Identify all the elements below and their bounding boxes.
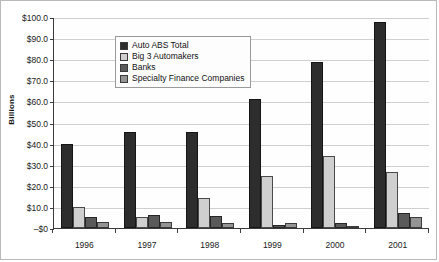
y-axis-title: Billions [7,74,16,146]
bar [311,62,323,228]
x-axis-tick-label: 1997 [116,229,179,261]
x-axis-tick-mark [365,229,366,233]
bar [73,207,85,228]
bar [124,132,136,228]
bar [410,217,422,228]
bar [347,226,359,228]
x-axis-tick-label: 2000 [304,229,367,261]
legend-item[interactable]: Specialty Finance Companies [120,73,244,84]
bar [386,172,398,228]
legend-label: Banks [132,62,156,73]
x-axis-tick-label: 1996 [53,229,116,261]
chart-figure: Billions $100.0$90.0$80.0$70.0$60.0$50.0… [0,0,437,260]
legend-label: Auto ABS Total [132,40,189,51]
bar [160,222,172,228]
x-axis-tick-mark [115,229,116,233]
x-axis-tick-mark [52,229,53,233]
bar [374,22,386,228]
bar-group [54,18,117,228]
bar [186,132,198,228]
x-axis-tick-label: 2001 [366,229,429,261]
legend-label: Big 3 Automakers [132,51,199,62]
x-axis-tick-label: 1998 [178,229,241,261]
bar [249,99,261,228]
legend-item[interactable]: Banks [120,62,244,73]
bar [398,213,410,228]
x-axis-tick-mark [303,229,304,233]
bar-group [367,18,430,228]
x-axis-end-tick [428,229,429,233]
bar [285,223,297,228]
bar [261,176,273,228]
bar [273,225,285,228]
legend-swatch-icon [120,75,128,83]
legend-swatch-icon [120,64,128,72]
x-axis-tick-label: 1999 [241,229,304,261]
bar [210,216,222,228]
bar [148,215,160,228]
bar [97,222,109,228]
bar [335,223,347,228]
x-axis: 199619971998199920002001 [53,229,429,261]
x-axis-tick-mark [240,229,241,233]
bar [323,156,335,228]
bar [61,144,73,228]
bar [222,223,234,228]
bar [198,198,210,228]
legend-swatch-icon [120,42,128,50]
x-axis-tick-mark [177,229,178,233]
legend-item[interactable]: Big 3 Automakers [120,51,244,62]
legend-item[interactable]: Auto ABS Total [120,40,244,51]
bar [85,217,97,228]
legend-swatch-icon [120,53,128,61]
legend-label: Specialty Finance Companies [132,73,244,84]
bar [136,217,148,228]
plot-area: $100.0$90.0$80.0$70.0$60.0$50.0$40.0$30.… [53,18,429,229]
bar-group [304,18,367,228]
legend: Auto ABS TotalBig 3 AutomakersBanksSpeci… [115,36,251,88]
